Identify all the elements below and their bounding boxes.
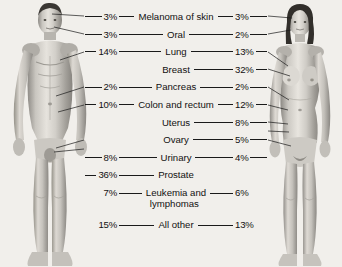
leader-rule (193, 139, 233, 140)
male-percent: 14% (98, 47, 117, 57)
female-percent: 13% (235, 47, 254, 57)
leader-rule (119, 175, 154, 176)
male-percent: 7% (104, 188, 117, 199)
row-leukemia-and-lymphomas: 7% Leukemia and lymphomas 6% (83, 188, 269, 209)
leader-rule (194, 69, 233, 70)
leader-rule (85, 104, 96, 105)
leader-rule (198, 225, 233, 226)
row-colon-and-rectum: 10% Colon and rectum 12% (83, 96, 269, 114)
male-gutter: 3% (83, 30, 117, 40)
male-gutter: 15% (83, 220, 117, 231)
female-percent: 32% (235, 65, 254, 75)
male-gutter: 2% (83, 82, 117, 92)
row-pancreas: 2% Pancreas 2% (83, 78, 269, 96)
female-gutter: 32% (235, 65, 269, 75)
female-percent: 2% (235, 30, 248, 40)
female-gutter: 13% (235, 220, 269, 231)
leader-rule (256, 104, 267, 105)
label-table: 3% Melanoma of skin 3% 3% Oral 2% (83, 8, 269, 184)
female-gutter: 2% (235, 30, 269, 40)
male-gutter: 8% (83, 153, 117, 163)
site-label: Leukemia and lymphomas (144, 188, 208, 209)
leader-rule (195, 157, 233, 158)
male-percent: 3% (104, 12, 117, 22)
female-gutter: 6% (235, 188, 269, 199)
site-label: Ovary (161, 135, 191, 145)
female-percent: 5% (235, 135, 248, 145)
female-gutter: 3% (235, 12, 269, 22)
leader-rule (191, 51, 233, 52)
female-percent: 8% (235, 118, 248, 128)
leader-rule (194, 122, 233, 123)
row-breast: Breast 32% (83, 61, 269, 79)
row-ovary: Ovary 5% (83, 131, 269, 149)
female-percent: 13% (235, 220, 254, 231)
male-percent: 10% (98, 100, 117, 110)
row-urinary: 8% Urinary 4% (83, 149, 269, 167)
male-percent: 2% (104, 82, 117, 92)
female-percent: 3% (235, 12, 248, 22)
female-percent: 2% (235, 82, 248, 92)
leader-rule (85, 51, 96, 52)
leader-rule (218, 104, 233, 105)
male-percent: 36% (98, 170, 117, 180)
female-gutter: 2% (235, 82, 269, 92)
female-percent: 6% (235, 188, 248, 199)
row-oral: 3% Oral 2% (83, 26, 269, 44)
male-percent: 3% (104, 30, 117, 40)
site-label-line1: Leukemia and (146, 187, 206, 198)
row-prostate: 36% Prostate (83, 166, 269, 184)
male-percent: 15% (98, 220, 117, 231)
female-gutter: 5% (235, 135, 269, 145)
leader-rule (250, 34, 267, 35)
site-label: Lung (163, 47, 188, 57)
leader-rule (250, 157, 267, 158)
leader-rule (119, 225, 154, 226)
site-label: Uterus (160, 118, 192, 128)
leader-rule (119, 157, 157, 158)
site-label: Colon and rectum (136, 100, 216, 110)
row-uterus: Uterus 8% (83, 114, 269, 132)
leader-rule (119, 193, 142, 194)
male-gutter: 36% (83, 170, 117, 180)
leader-rule (119, 87, 152, 88)
leader-rule (119, 16, 134, 17)
female-gutter: 4% (235, 153, 269, 163)
site-label: Melanoma of skin (136, 12, 215, 22)
leader-rule (119, 34, 163, 35)
site-label: Prostate (156, 170, 196, 180)
male-gutter: 14% (83, 47, 117, 57)
row-all-other: 15% All other 13% (83, 220, 269, 231)
row-melanoma-of-skin: 3% Melanoma of skin 3% (83, 8, 269, 26)
leader-rule (119, 51, 161, 52)
male-gutter: 3% (83, 12, 117, 22)
female-percent: 4% (235, 153, 248, 163)
site-label: Breast (160, 65, 192, 75)
leader-rule (218, 16, 233, 17)
male-gutter: 10% (83, 100, 117, 110)
male-gutter: 7% (83, 188, 117, 199)
leader-rule (210, 193, 233, 194)
site-label: All other (156, 220, 195, 231)
leader-rule (85, 87, 102, 88)
site-label: Pancreas (154, 82, 199, 92)
female-gutter: 8% (235, 118, 269, 128)
leader-rule (256, 51, 267, 52)
female-gutter: 12% (235, 100, 269, 110)
leader-rule (250, 122, 267, 123)
leader-rule (85, 157, 102, 158)
leader-rule (256, 69, 267, 70)
row-lung: 14% Lung 13% (83, 43, 269, 61)
male-percent: 8% (104, 153, 117, 163)
footer-table: 7% Leukemia and lymphomas 6% 15% All oth… (83, 188, 269, 231)
leader-rule (119, 104, 134, 105)
leader-rule (85, 175, 96, 176)
leader-rule (200, 87, 233, 88)
site-label: Urinary (159, 153, 194, 163)
cancer-incidence-diagram: 3% Melanoma of skin 3% 3% Oral 2% (0, 0, 342, 267)
leader-rule (250, 16, 267, 17)
leader-rule (189, 34, 233, 35)
female-percent: 12% (235, 100, 254, 110)
female-gutter: 13% (235, 47, 269, 57)
leader-rule (250, 87, 267, 88)
